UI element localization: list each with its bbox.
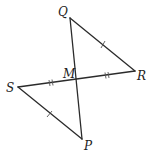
- tick-mark-mr-1: [105, 73, 106, 79]
- label-q: Q: [58, 5, 68, 19]
- label-p: P: [83, 139, 93, 153]
- tick-mark-sm-1: [49, 80, 50, 86]
- geometry-figure: Q R S P M: [0, 0, 149, 156]
- label-m: M: [62, 67, 76, 81]
- label-s: S: [6, 81, 14, 95]
- label-r: R: [136, 69, 146, 83]
- tick-mark-sm-2: [52, 80, 53, 86]
- tick-mark-mr-2: [108, 72, 109, 78]
